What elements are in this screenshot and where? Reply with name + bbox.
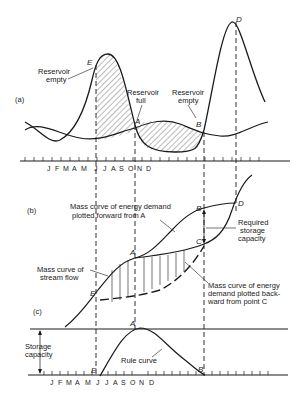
svg-text:S: S: [121, 379, 126, 386]
panel-a: J F M A M J J A S O N D (a) Reservoir em…: [15, 15, 290, 172]
svg-text:M: M: [85, 379, 91, 386]
svg-text:A: A: [72, 165, 77, 172]
shaded-area-e-to-a: [96, 54, 135, 140]
svg-text:full: full: [136, 96, 146, 105]
panel-c-label: (c): [33, 307, 42, 316]
svg-text:J: J: [94, 165, 98, 172]
svg-text:Mass curve of energy demand: Mass curve of energy demand: [70, 202, 171, 211]
svg-text:F: F: [58, 379, 63, 386]
panel-b-label: (b): [27, 206, 37, 215]
month-labels-c: J F M A M J J A S O N D: [50, 379, 154, 386]
svg-text:M: M: [66, 379, 72, 386]
svg-text:J: J: [96, 379, 100, 386]
svg-text:capacity: capacity: [25, 350, 53, 359]
rule-curve-label: Rule curve: [121, 356, 157, 365]
point-e-a: E: [87, 58, 93, 67]
reservoir-operation-diagram: J F M A M J J A S O N D (a) Reservoir em…: [0, 0, 307, 400]
svg-text:empty: empty: [178, 96, 199, 105]
svg-text:J: J: [103, 165, 107, 172]
svg-text:J: J: [47, 165, 51, 172]
svg-text:O: O: [128, 165, 134, 172]
point-a-a: A: [134, 117, 140, 126]
point-b-b: B: [196, 204, 202, 213]
shaded-area-a-to-b: [135, 121, 204, 152]
svg-text:empty: empty: [46, 75, 67, 84]
svg-text:F: F: [55, 165, 60, 172]
point-e-c: E: [91, 366, 97, 375]
svg-text:capacity: capacity: [238, 234, 266, 243]
svg-text:O: O: [130, 379, 136, 386]
svg-text:D: D: [149, 379, 154, 386]
hatch-lines-b: [112, 250, 184, 302]
point-e-b: E: [90, 289, 96, 298]
svg-text:A: A: [111, 165, 116, 172]
point-d-b: D: [238, 199, 244, 208]
svg-text:plotted forward from A: plotted forward from A: [72, 211, 145, 220]
svg-text:J: J: [105, 379, 109, 386]
point-a-b: A: [129, 248, 135, 257]
svg-text:J: J: [50, 379, 54, 386]
svg-text:A: A: [113, 379, 118, 386]
svg-text:S: S: [119, 165, 124, 172]
point-a-c: A: [129, 319, 135, 328]
month-labels-a: J F M A M J J A S O N D: [47, 165, 151, 172]
axis-ticks-c: [44, 371, 268, 375]
point-c-b: C: [196, 237, 202, 246]
svg-text:stream flow: stream flow: [40, 273, 79, 282]
svg-text:N: N: [137, 165, 142, 172]
panel-b: (b) Mass curve of energy demand plotted …: [27, 175, 281, 327]
svg-text:ward from point C: ward from point C: [207, 297, 268, 306]
panel-a-label: (a): [15, 95, 25, 104]
point-b-c: B: [198, 365, 204, 374]
rule-curve: [100, 328, 205, 376]
svg-text:A: A: [75, 379, 80, 386]
svg-text:N: N: [139, 379, 144, 386]
svg-text:D: D: [146, 165, 151, 172]
panel-c: (c) J F M A M J J A S O N D Storage capa…: [25, 307, 288, 386]
axis-ticks-a: [25, 157, 259, 161]
point-b-a: B: [196, 120, 202, 129]
point-d-a: D: [236, 15, 242, 24]
svg-text:M: M: [63, 165, 69, 172]
svg-text:M: M: [81, 165, 87, 172]
